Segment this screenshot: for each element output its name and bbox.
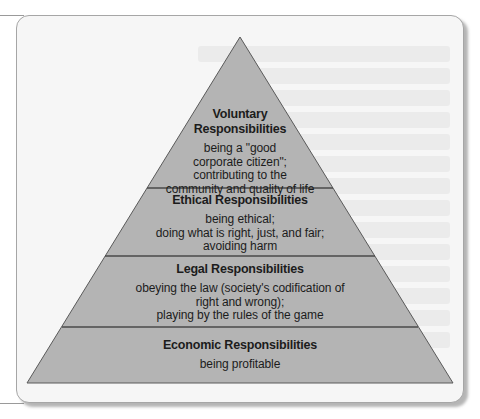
level-title: Responsibilities bbox=[166, 122, 315, 137]
level-title: Voluntary bbox=[166, 107, 315, 122]
level-ethical: Ethical Responsibilities being ethical; … bbox=[156, 193, 325, 254]
level-description: contributing to the bbox=[166, 169, 315, 183]
level-description: being a "good bbox=[166, 142, 315, 156]
level-economic: Economic Responsibilities being profitab… bbox=[163, 338, 317, 372]
level-title: Ethical Responsibilities bbox=[156, 193, 325, 208]
level-description: playing by the rules of the game bbox=[136, 309, 345, 323]
level-title: Legal Responsibilities bbox=[136, 262, 345, 277]
level-description: obeying the law (society's codification … bbox=[136, 282, 345, 296]
level-description: right and wrong); bbox=[136, 296, 345, 310]
level-voluntary: Voluntary Responsibilities being a "good… bbox=[166, 107, 315, 196]
level-description: corporate citizen"; bbox=[166, 156, 315, 170]
level-legal: Legal Responsibilities obeying the law (… bbox=[136, 262, 345, 323]
level-description: being ethical; bbox=[156, 213, 325, 227]
level-title: Economic Responsibilities bbox=[163, 338, 317, 353]
level-description: doing what is right, just, and fair; bbox=[156, 227, 325, 241]
level-description: avoiding harm bbox=[156, 240, 325, 254]
level-description: being profitable bbox=[163, 358, 317, 372]
